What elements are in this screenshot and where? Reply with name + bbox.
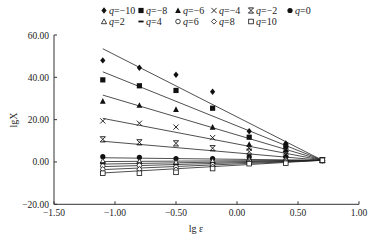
- legend-label: q=−4: [219, 5, 240, 16]
- legend-marker-q-8: [138, 8, 143, 13]
- chart: q=−10q=−8q=−6q=−4q=−2q=0q=2q=4q=6q=8q=10…: [0, 0, 376, 243]
- axes: [54, 35, 359, 204]
- y-tick-label: 40.00: [28, 73, 50, 83]
- fit-line-q-8: [103, 72, 323, 160]
- legend-item-q-10: q=−10: [101, 5, 135, 16]
- legend-item-q6: q=6: [176, 16, 199, 27]
- fit-lines: [103, 49, 323, 173]
- legend-item-q2: q=2: [101, 16, 124, 27]
- y-tick-label: −20.00: [22, 200, 49, 210]
- legend-item-q-6: q=−6: [175, 5, 204, 16]
- point-q-10: [100, 57, 105, 63]
- legend-item-q8: q=8: [211, 16, 234, 27]
- point-q10: [137, 171, 142, 176]
- y-ticks: −20.000.0020.0040.0060.00: [22, 31, 57, 210]
- legend-label: q=8: [219, 16, 235, 27]
- legend-item-q4: q=4: [138, 16, 161, 27]
- legend-item-q0: q=0: [287, 5, 310, 16]
- x-tick-label: 1.00: [351, 208, 368, 218]
- x-tick-label: 0.50: [290, 208, 307, 218]
- point-q-2: [100, 137, 105, 142]
- legend-label: q=10: [256, 16, 277, 27]
- point-q-10: [137, 65, 142, 71]
- point-q-6: [100, 98, 106, 104]
- point-q10: [320, 158, 325, 163]
- legend-marker-q10: [249, 19, 254, 24]
- legend-marker-q-4: [211, 8, 216, 13]
- legend-item-q-4: q=−4: [211, 5, 240, 16]
- legend: q=−10q=−8q=−6q=−4q=−2q=0q=2q=4q=6q=8q=10: [101, 5, 310, 27]
- legend-label: q=−2: [256, 5, 277, 16]
- legend-label: q=−8: [146, 5, 167, 16]
- point-q-2: [173, 141, 178, 146]
- legend-label: q=0: [295, 5, 311, 16]
- legend-marker-q-2: [248, 8, 253, 13]
- point-q-4: [100, 118, 105, 123]
- legend-item-q-8: q=−8: [138, 5, 167, 16]
- point-q-8: [210, 106, 215, 111]
- point-q-8: [100, 77, 105, 82]
- legend-label: q=2: [109, 16, 125, 27]
- y-tick-label: 60.00: [28, 31, 50, 41]
- legend-marker-q6: [176, 19, 181, 24]
- legend-item-q10: q=10: [249, 16, 277, 27]
- x-axis-label: lg ε: [189, 223, 203, 234]
- legend-label: q=−6: [183, 5, 204, 16]
- point-q-6: [173, 106, 179, 112]
- point-q10: [101, 171, 106, 176]
- legend-marker-q-6: [175, 8, 181, 14]
- x-tick-label: 0.00: [229, 208, 246, 218]
- legend-marker-q2: [101, 19, 106, 24]
- x-tick-label: −1.00: [104, 208, 126, 218]
- y-axis-label: lgX: [8, 112, 19, 128]
- point-q-4: [173, 124, 178, 129]
- legend-label: q=4: [146, 16, 162, 27]
- point-q10: [174, 170, 179, 175]
- point-q-10: [210, 89, 215, 95]
- point-q-10: [173, 72, 178, 78]
- legend-marker-q-10: [101, 7, 106, 13]
- legend-marker-q8: [211, 19, 216, 24]
- point-q10: [210, 166, 215, 171]
- point-q10: [284, 161, 289, 166]
- point-q-2: [210, 146, 215, 151]
- legend-label: q=−10: [109, 5, 135, 16]
- point-q-8: [173, 88, 178, 93]
- x-tick-label: −0.50: [165, 208, 187, 218]
- y-tick-label: 20.00: [28, 115, 50, 125]
- legend-marker-q4: [138, 21, 143, 23]
- point-q-10: [247, 128, 252, 134]
- legend-item-q-2: q=−2: [248, 5, 277, 16]
- point-q-8: [247, 135, 252, 140]
- point-q-2: [247, 149, 252, 154]
- point-q10: [247, 161, 252, 166]
- legend-label: q=6: [183, 16, 199, 27]
- y-tick-label: 0.00: [32, 157, 49, 167]
- point-q-8: [137, 83, 142, 88]
- legend-marker-q0: [287, 8, 292, 13]
